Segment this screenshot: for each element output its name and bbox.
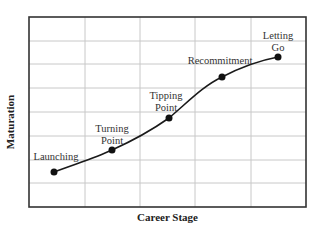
y-axis-label-wrap: Maturation <box>0 112 20 132</box>
point-tipping-point <box>166 115 173 122</box>
point-launching <box>51 169 58 176</box>
label-turning-point-line2: Point <box>101 135 123 146</box>
maturation-curve <box>54 57 278 172</box>
label-letting-go-line1: Letting <box>263 30 294 41</box>
career-maturation-chart: Launching Turning Point Tipping Point Re… <box>0 0 326 232</box>
point-labels: Launching Turning Point Tipping Point Re… <box>34 30 294 162</box>
label-turning-point-line1: Turning <box>95 123 129 134</box>
point-recommitment <box>219 74 226 81</box>
point-turning-point <box>109 147 116 154</box>
label-letting-go-line2: Go <box>272 42 285 53</box>
label-tipping-point-line1: Tipping <box>150 90 184 101</box>
label-launching: Launching <box>34 151 80 162</box>
label-recommitment: Recommitment <box>188 55 253 66</box>
label-tipping-point-line2: Point <box>155 102 177 113</box>
y-axis-label: Maturation <box>4 95 16 149</box>
point-letting-go <box>275 54 282 61</box>
x-axis-label: Career Stage <box>29 211 306 223</box>
